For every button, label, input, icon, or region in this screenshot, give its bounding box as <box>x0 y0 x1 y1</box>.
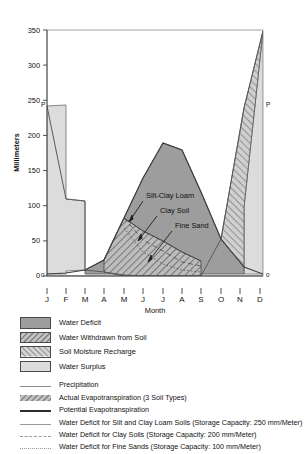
y-tick-150: 150 <box>14 167 40 174</box>
x-tick-jun: J <box>136 295 150 304</box>
y-axis-ticks <box>43 30 47 276</box>
precip-marker-right: P <box>266 101 270 108</box>
swatch-soil-recharge <box>20 346 51 358</box>
line-sample-precipitation <box>20 386 51 387</box>
legend-label-actual-evapotranspiration: Actual Evapotranspiration (3 Soil Types) <box>59 393 187 402</box>
legend-label-deficit-silt-clay-loam: Water Deficit for Silt and Clay Loam Soi… <box>59 418 302 427</box>
legend-item-potential-evapotranspiration: Potential Evapotranspiration <box>0 404 305 416</box>
zero-marker-left: 0 <box>41 271 44 278</box>
swatch-water-deficit <box>20 317 51 329</box>
x-tick-oct: O <box>214 295 228 304</box>
swatch-water-surplus <box>20 361 51 373</box>
x-tick-dec: D <box>253 295 267 304</box>
y-tick-300: 300 <box>14 62 40 69</box>
y-tick-350: 350 <box>14 27 40 34</box>
legend-label-potential-evapotranspiration: Potential Evapotranspiration <box>59 405 149 414</box>
y-tick-200: 200 <box>14 132 40 139</box>
y-axis-title: Millimeters <box>12 113 21 193</box>
legend-label-water-deficit: Water Deficit <box>59 318 101 327</box>
x-tick-aug: A <box>175 295 189 304</box>
x-tick-feb: F <box>59 295 73 304</box>
precip-marker-left: P <box>41 101 45 108</box>
x-tick-jul: J <box>156 295 170 304</box>
annotation-silt-clay-loam: Silt-Clay Loam <box>146 191 194 200</box>
x-tick-jan: J <box>40 295 54 304</box>
x-tick-apr: A <box>97 295 111 304</box>
x-tick-sep: S <box>194 295 208 304</box>
line-sample-deficit-silt-clay-loam <box>20 424 51 425</box>
line-sample-potential-evapotranspiration <box>20 410 51 412</box>
legend-label-water-surplus: Water Surplus <box>59 362 106 371</box>
y-tick-250: 250 <box>14 97 40 104</box>
legend-item-precipitation: Precipitation <box>0 379 305 391</box>
y-tick-50: 50 <box>14 237 40 244</box>
legend-item-water-deficit: Water Deficit <box>0 316 305 331</box>
x-axis-title: Month <box>125 306 185 315</box>
legend-item-deficit-clay-soils: Water Deficit for Clay Soils (Storage Ca… <box>0 429 305 441</box>
legend-label-water-withdrawn: Water Withdrawn from Soil <box>59 333 147 342</box>
y-tick-0: 0 <box>14 272 40 279</box>
zero-marker-right: 0 <box>266 271 269 278</box>
line-sample-deficit-clay-soils <box>20 436 51 437</box>
legend-label-soil-recharge: Soil Moisture Recharge <box>59 347 136 356</box>
annotation-clay-soil: Clay Soil <box>160 206 189 215</box>
legend-label-deficit-clay-soils: Water Deficit for Clay Soils (Storage Ca… <box>59 430 256 439</box>
y-tick-100: 100 <box>14 202 40 209</box>
legend-label-deficit-fine-sands: Water Deficit for Fine Sands (Storage Ca… <box>59 442 261 451</box>
line-sample-deficit-fine-sands <box>20 448 51 449</box>
legend-item-soil-recharge: Soil Moisture Recharge <box>0 345 305 360</box>
chart-legend: Water Deficit Water Withdrawn from Soil … <box>0 316 305 442</box>
legend-item-water-withdrawn: Water Withdrawn from Soil <box>0 331 305 346</box>
legend-label-precipitation: Precipitation <box>59 380 99 389</box>
legend-item-actual-evapotranspiration: Actual Evapotranspiration (3 Soil Types) <box>0 392 305 404</box>
x-tick-may: M <box>117 295 131 304</box>
swatch-water-withdrawn <box>20 332 51 344</box>
legend-item-deficit-fine-sands: Water Deficit for Fine Sands (Storage Ca… <box>0 441 305 453</box>
x-tick-mar: M <box>78 295 92 304</box>
below-zero-band <box>47 276 263 288</box>
legend-item-water-surplus: Water Surplus <box>0 360 305 375</box>
legend-item-deficit-silt-clay-loam: Water Deficit for Silt and Clay Loam Soi… <box>0 417 305 429</box>
annotation-fine-sand: Fine Sand <box>175 221 209 230</box>
plot-area <box>0 0 305 310</box>
x-axis-ticks <box>47 288 260 294</box>
x-tick-nov: N <box>233 295 247 304</box>
line-sample-actual-evapotranspiration <box>20 395 51 401</box>
